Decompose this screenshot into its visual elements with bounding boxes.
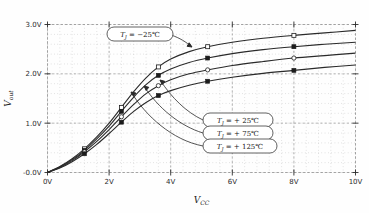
y-tick-labels: -0.0V1.0V2.0V3.0V — [23, 21, 42, 177]
series-callout[interactable]: TJ = −25℃ — [107, 27, 173, 41]
leader-line — [144, 86, 203, 133]
data-point-marker — [292, 56, 296, 60]
grid-minor — [48, 25, 356, 173]
data-point-marker — [156, 65, 160, 69]
y-tick-label: 2.0V — [26, 70, 42, 78]
axis-titles: VCCVout — [3, 90, 210, 206]
data-point-marker — [206, 45, 210, 49]
x-tick-label: 0V — [43, 178, 52, 186]
data-point-marker — [292, 33, 296, 37]
series-callout[interactable]: TJ = + 75℃ — [203, 126, 273, 140]
y-tick-label: 1.0V — [26, 120, 42, 128]
data-point-marker — [119, 120, 123, 124]
data-point-marker — [156, 84, 160, 88]
series-callout[interactable]: TJ = + 25℃ — [203, 113, 273, 127]
data-point-marker — [119, 115, 123, 119]
series-curve — [48, 65, 356, 173]
y-tick-label: -0.0V — [23, 169, 42, 177]
leader-line — [131, 92, 203, 146]
curve-path — [48, 30, 356, 172]
series-curve — [48, 53, 356, 172]
data-point-marker — [119, 109, 123, 113]
callout-leaders — [131, 35, 203, 146]
curve-path — [48, 65, 356, 173]
y-tick-label: 3.0V — [26, 21, 42, 29]
data-point-marker — [82, 152, 86, 156]
plot-frame — [48, 25, 356, 173]
data-point-marker — [292, 45, 296, 49]
x-tick-label: 8V — [289, 178, 298, 186]
data-curves — [48, 30, 356, 172]
curve-path — [48, 53, 356, 172]
data-point-marker — [156, 73, 160, 77]
grid-major — [48, 25, 356, 173]
x-axis-title: VCC — [194, 195, 210, 206]
data-point-marker — [292, 68, 296, 72]
x-tick-labels: 0V2V4V6V8V10V — [43, 178, 363, 186]
data-point-marker — [206, 79, 210, 83]
data-point-marker — [206, 68, 210, 72]
chart-root: 0V2V4V6V8V10V-0.0V1.0V2.0V3.0VVCCVoutTJ … — [0, 0, 369, 213]
data-point-marker — [119, 105, 123, 109]
x-tick-label: 4V — [166, 178, 175, 186]
series-curve — [48, 30, 356, 172]
x-tick-label: 2V — [104, 178, 113, 186]
leader-line — [160, 80, 203, 120]
series-callouts: TJ = −25℃TJ = + 25℃TJ = + 75℃TJ = + 125℃ — [107, 27, 277, 153]
x-tick-label: 6V — [228, 178, 237, 186]
series-callout[interactable]: TJ = + 125℃ — [203, 139, 277, 153]
vout-vs-vcc-chart: 0V2V4V6V8V10V-0.0V1.0V2.0V3.0VVCCVoutTJ … — [0, 0, 369, 213]
data-point-marker — [156, 94, 160, 98]
leader-arrowhead — [144, 86, 149, 91]
y-axis-title: Vout — [3, 90, 14, 107]
x-tick-label: 10V — [349, 178, 363, 186]
tick-marks — [45, 22, 359, 176]
data-point-marker — [206, 56, 210, 60]
